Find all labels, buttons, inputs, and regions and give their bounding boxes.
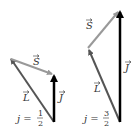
svg-text:S: S bbox=[33, 56, 40, 67]
diagram-j-three-halves: S L J j = 3 2 bbox=[82, 12, 131, 128]
caption-j-three-halves: j = 3 2 bbox=[82, 109, 109, 128]
svg-text:3: 3 bbox=[104, 109, 109, 118]
label-L: L bbox=[93, 82, 101, 95]
label-S: S bbox=[86, 19, 93, 32]
vector-diagram: S L J j = 1 2 S L J bbox=[0, 0, 136, 133]
svg-text:1: 1 bbox=[38, 109, 43, 118]
label-J: J bbox=[57, 91, 65, 104]
svg-text:j =: j = bbox=[15, 113, 32, 124]
svg-text:j =: j = bbox=[82, 113, 99, 124]
svg-text:S: S bbox=[86, 20, 93, 31]
diagram-j-half: S L J j = 1 2 bbox=[11, 55, 65, 129]
label-L: L bbox=[22, 91, 30, 104]
svg-text:2: 2 bbox=[104, 119, 109, 128]
svg-text:2: 2 bbox=[38, 119, 43, 128]
label-J: J bbox=[123, 61, 131, 74]
svg-text:J: J bbox=[57, 92, 64, 103]
caption-j-half: j = 1 2 bbox=[15, 109, 43, 128]
svg-text:L: L bbox=[22, 92, 30, 103]
svg-text:L: L bbox=[93, 83, 101, 94]
svg-text:J: J bbox=[123, 62, 130, 73]
label-S: S bbox=[33, 55, 40, 68]
